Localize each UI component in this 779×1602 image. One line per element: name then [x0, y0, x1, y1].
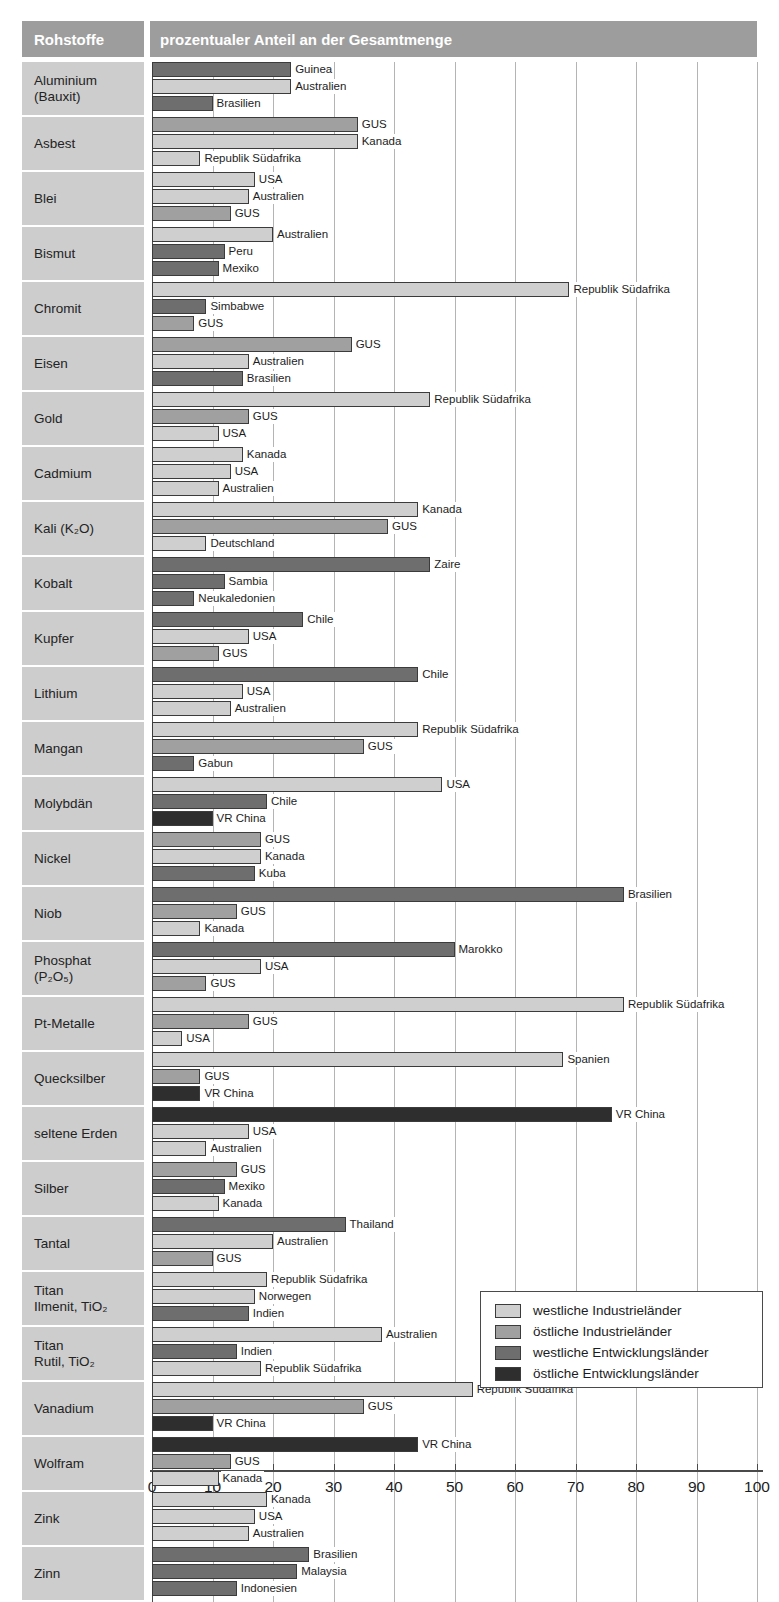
bar-group: Republik SüdafrikaGUSUSA — [150, 392, 763, 445]
bar-row: Spanien — [150, 1052, 763, 1067]
bar-row: Australien — [150, 481, 763, 496]
bar-group: GUSAustralienBrasilien — [150, 337, 763, 390]
bar-row: GUS — [150, 1162, 763, 1177]
bar-label: Gabun — [196, 756, 235, 771]
bar-marokko — [152, 942, 455, 957]
bar-group: Republik SüdafrikaSimbabweGUS — [150, 282, 763, 335]
row-label-lithium: Lithium — [22, 667, 144, 720]
bar-row: VR China — [150, 1416, 763, 1431]
bar-label: Indien — [251, 1306, 286, 1321]
bar-row: GUS — [150, 1454, 763, 1469]
bar-gus — [152, 1014, 249, 1029]
tick-100 — [757, 1464, 758, 1471]
bar-republik-s-dafrika — [152, 722, 418, 737]
bar-australien — [152, 354, 249, 369]
bar-row: USA — [150, 629, 763, 644]
bar-australien — [152, 1141, 206, 1156]
bar-row: USA — [150, 1124, 763, 1139]
bar-label: Australien — [221, 481, 276, 496]
bar-row: Brasilien — [150, 96, 763, 111]
bar-row: Sambia — [150, 574, 763, 589]
bar-label: Sambia — [227, 574, 270, 589]
bar-gus — [152, 1069, 200, 1084]
bar-kanada — [152, 1492, 267, 1507]
bar-label: GUS — [202, 1069, 231, 1084]
bar-row: USA — [150, 464, 763, 479]
legend-swatch-oi — [495, 1325, 521, 1339]
bar-australien — [152, 701, 231, 716]
bar-row: Malaysia — [150, 1564, 763, 1579]
bar-group: Republik SüdafrikaGUSGabun — [150, 722, 763, 775]
bar-row: GUS — [150, 976, 763, 991]
bar-label: GUS — [196, 316, 225, 331]
bar-label: Zaire — [432, 557, 462, 572]
bar-simbabwe — [152, 299, 206, 314]
row-label-pt-metalle: Pt-Metalle — [22, 997, 144, 1050]
bar-label: Mexiko — [227, 1179, 267, 1194]
bar-peru — [152, 244, 225, 259]
bar-label: Brasilien — [245, 371, 293, 386]
bar-row: GUS — [150, 409, 763, 424]
bar-malaysia — [152, 1564, 297, 1579]
bar-label: Republik Südafrika — [202, 151, 303, 166]
row-label-phosphat-p2o5: Phosphat (P₂O₅) — [22, 942, 144, 995]
bar-label: Australien — [275, 227, 330, 242]
bar-gus — [152, 1251, 213, 1266]
bar-usa — [152, 629, 249, 644]
bar-row: Kanada — [150, 134, 763, 149]
bar-row: Republik Südafrika — [150, 1272, 763, 1287]
bar-usa — [152, 1124, 249, 1139]
bar-row: GUS — [150, 519, 763, 534]
bar-row: Australien — [150, 701, 763, 716]
legend-swatch-we — [495, 1346, 521, 1360]
row-label-kobalt: Kobalt — [22, 557, 144, 610]
bar-deutschland — [152, 536, 206, 551]
bar-label: GUS — [251, 1014, 280, 1029]
legend-item-oe: östliche Entwicklungsländer — [495, 1363, 762, 1384]
bar-brasilien — [152, 96, 213, 111]
bar-brasilien — [152, 887, 624, 902]
row-label-molybd-n: Molybdän — [22, 777, 144, 830]
bar-vr-china — [152, 1416, 213, 1431]
bar-row: Australien — [150, 1526, 763, 1541]
bar-row: GUS — [150, 1399, 763, 1414]
bar-row: GUS — [150, 832, 763, 847]
bar-row: Kanada — [150, 1196, 763, 1211]
bar-gus — [152, 316, 194, 331]
bar-republik-s-dafrika — [152, 392, 430, 407]
bar-row: GUS — [150, 904, 763, 919]
bar-kanada — [152, 447, 243, 462]
bar-label: Kanada — [420, 502, 464, 517]
bar-label: Australien — [233, 701, 288, 716]
bar-label: VR China — [420, 1437, 473, 1452]
row-label-bismut: Bismut — [22, 227, 144, 280]
bar-zaire — [152, 557, 430, 572]
bar-row: Thailand — [150, 1217, 763, 1232]
row-label-tantal: Tantal — [22, 1217, 144, 1270]
bar-row: USA — [150, 1031, 763, 1046]
bar-group: KanadaGUSDeutschland — [150, 502, 763, 555]
bar-australien — [152, 481, 219, 496]
bar-label: Kanada — [263, 849, 307, 864]
legend-swatch-oe — [495, 1367, 521, 1381]
tick-60 — [515, 1464, 516, 1471]
bar-kuba — [152, 866, 255, 881]
bar-usa — [152, 1509, 255, 1524]
bar-label: Indien — [239, 1344, 274, 1359]
bar-row: USA — [150, 777, 763, 792]
bar-gus — [152, 904, 237, 919]
bar-row: USA — [150, 1509, 763, 1524]
row-label-vanadium: Vanadium — [22, 1382, 144, 1435]
bar-kanada — [152, 1471, 219, 1486]
bar-label: Republik Südafrika — [263, 1361, 364, 1376]
bar-row: Kuba — [150, 866, 763, 881]
bar-row: GUS — [150, 117, 763, 132]
bar-usa — [152, 426, 219, 441]
bar-group: MarokkoUSAGUS — [150, 942, 763, 995]
bar-group: GUSMexikoKanada — [150, 1162, 763, 1215]
row-label-niob: Niob — [22, 887, 144, 940]
bar-group: GUSKanadaKuba — [150, 832, 763, 885]
bar-label: Neukaledonien — [196, 591, 277, 606]
row-label-silber: Silber — [22, 1162, 144, 1215]
